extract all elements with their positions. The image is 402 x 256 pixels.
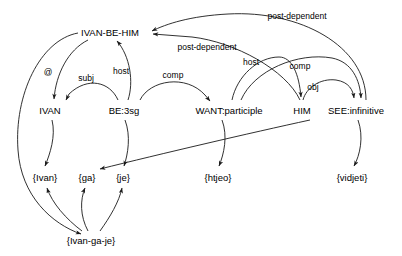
edges-layer: [0, 0, 402, 256]
edge-ivangaje-to-tok-je: [100, 188, 122, 231]
edge-him-to-tok-ga: [100, 120, 310, 169]
node-token-je[interactable]: {je}: [116, 172, 130, 183]
edge-ivan-to-tok-ivan: [45, 120, 53, 166]
edge-want-to-tok-htjeo: [219, 120, 225, 166]
edge-ivangaje-to-tok-ga: [82, 188, 88, 231]
node-token-vidjeti[interactable]: {vidjeti}: [337, 172, 368, 183]
edge-label-obj: obj: [307, 82, 318, 92]
edge-be3sg-to-want: [140, 82, 210, 101]
edge-ivanbehim-to-ivangaje: [18, 33, 81, 234]
edge-label-subj: subj: [78, 73, 94, 83]
node-him[interactable]: HIM: [293, 105, 310, 116]
edge-label-host-2: host: [243, 57, 259, 67]
node-see-infinitive[interactable]: SEE:infinitive: [328, 105, 384, 116]
node-token-htjeo[interactable]: {htjeo}: [205, 172, 232, 183]
edge-be3sg-to-ivan: [66, 83, 118, 100]
node-token-ivan[interactable]: {Ivan}: [33, 172, 57, 183]
dependency-diagram: IVAN-BE-HIM IVAN BE:3sg WANT:participle …: [0, 0, 402, 256]
edge-see-to-tok-vidjeti: [354, 120, 361, 166]
edge-ivangaje-to-tok-ivan: [47, 188, 82, 231]
edge-label-at: @: [44, 67, 53, 77]
edge-be3sg-to-tok-je: [124, 120, 128, 166]
edge-ivanbehim-to-ivan: [54, 40, 88, 99]
edge-label-post-dependent-2: post-dependent: [267, 11, 326, 21]
node-ivan[interactable]: IVAN: [39, 105, 60, 116]
node-token-ivan-ga-je[interactable]: {Ivan-ga-je}: [67, 235, 116, 246]
node-be3sg[interactable]: BE:3sg: [109, 105, 140, 116]
edge-label-post-dependent-1: post-dependent: [177, 42, 236, 52]
edge-label-host-1: host: [113, 66, 129, 76]
edge-label-comp-1: comp: [163, 70, 184, 80]
node-token-ga[interactable]: {ga}: [79, 172, 96, 183]
node-ivan-be-him[interactable]: IVAN-BE-HIM: [81, 27, 139, 38]
node-want-participle[interactable]: WANT:participle: [195, 105, 262, 116]
edge-label-comp-2: comp: [290, 61, 311, 71]
